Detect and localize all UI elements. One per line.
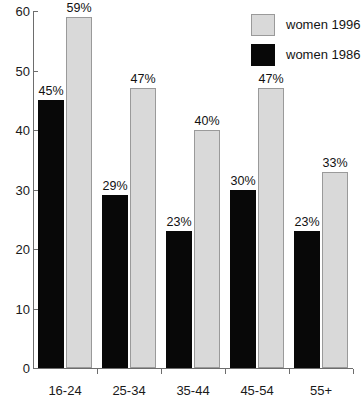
y-axis-tick-label: 50 bbox=[4, 65, 30, 78]
legend-item-label: women 1996 bbox=[286, 18, 360, 31]
legend-item: women 1986 bbox=[251, 43, 360, 66]
x-axis-tick bbox=[225, 369, 226, 374]
bar-value-label: 45% bbox=[38, 85, 63, 98]
y-axis-tick-label: 20 bbox=[4, 243, 30, 256]
x-axis-line bbox=[33, 368, 353, 369]
legend-item-label: women 1986 bbox=[286, 48, 360, 61]
bar-value-label: 40% bbox=[194, 115, 219, 128]
bar-women-1986-35-44 bbox=[166, 231, 192, 368]
bar-value-label: 47% bbox=[130, 73, 155, 86]
bar-value-label: 30% bbox=[230, 175, 255, 188]
bar-value-label: 29% bbox=[102, 180, 127, 193]
bar-women-1996-45-54 bbox=[258, 88, 284, 368]
y-axis-tick-label: 0 bbox=[4, 362, 30, 375]
black-swatch bbox=[251, 44, 275, 66]
x-axis-tick bbox=[97, 369, 98, 374]
x-axis-tick bbox=[289, 369, 290, 374]
bar-value-label: 33% bbox=[322, 157, 347, 170]
bar-value-label: 59% bbox=[66, 2, 91, 15]
x-axis-category-label: 16-24 bbox=[48, 384, 81, 397]
bar-value-label: 23% bbox=[166, 216, 191, 229]
x-axis-category-label: 45-54 bbox=[240, 384, 273, 397]
bar-women-1996-35-44 bbox=[194, 130, 220, 368]
bar-women-1996-25-34 bbox=[130, 88, 156, 368]
x-axis-category-label: 55+ bbox=[310, 384, 332, 397]
bar-women-1986-25-34 bbox=[102, 195, 128, 368]
bar-women-1986-45-54 bbox=[230, 190, 256, 369]
x-axis-category-label: 35-44 bbox=[176, 384, 209, 397]
bar-value-label: 47% bbox=[258, 73, 283, 86]
bar-chart: 0102030405060 16-2425-3435-4445-5455+ 45… bbox=[0, 0, 362, 409]
legend-item: women 1996 bbox=[251, 13, 360, 36]
y-axis-tick-label: 30 bbox=[4, 184, 30, 197]
bar-value-label: 23% bbox=[294, 216, 319, 229]
x-axis-tick bbox=[353, 369, 354, 374]
bar-women-1986-16-24 bbox=[38, 100, 64, 368]
light-grey-swatch bbox=[251, 14, 275, 36]
bar-women-1986-55+ bbox=[294, 231, 320, 368]
x-axis-category-label: 25-34 bbox=[112, 384, 145, 397]
x-axis-tick bbox=[161, 369, 162, 374]
y-axis-tick-label: 10 bbox=[4, 303, 30, 316]
y-axis-tick-label: 40 bbox=[4, 124, 30, 137]
chart-legend: women 1996women 1986 bbox=[251, 13, 360, 73]
bar-women-1996-16-24 bbox=[66, 17, 92, 368]
y-axis-tick-label: 60 bbox=[4, 5, 30, 18]
bar-women-1996-55+ bbox=[322, 172, 348, 368]
y-axis-tick bbox=[33, 368, 38, 369]
